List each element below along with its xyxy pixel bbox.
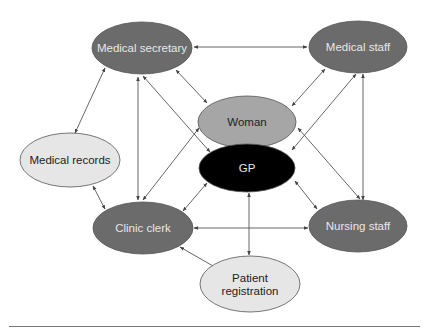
node-label: Medical records [29, 154, 110, 166]
bottom-divider [9, 326, 420, 327]
care-network-diagram: Medical secretaryMedical staffWomanGPMed… [0, 0, 427, 331]
edge-medical-secretary-medical-records [75, 68, 105, 133]
node-medical-secretary: Medical secretary [92, 22, 192, 74]
node-label: Medical secretary [97, 42, 187, 54]
nodes-layer: Medical secretaryMedical staffWomanGPMed… [20, 21, 407, 312]
node-clinic-clerk: Clinic clerk [93, 202, 193, 254]
edge-woman-nursing-staff [298, 128, 360, 199]
edge-gp-clinic-clerk [183, 183, 207, 211]
node-label: Woman [227, 116, 266, 128]
node-label: Nursing staff [326, 220, 391, 232]
node-label: GP [239, 162, 256, 174]
node-label: Clinic clerk [115, 222, 171, 234]
edge-woman-clinic-clerk [143, 128, 199, 200]
edge-medical-secretary-woman [176, 70, 207, 103]
edge-medical-records-clinic-clerk [93, 186, 105, 209]
edge-medical-staff-woman [292, 69, 325, 106]
node-nursing-staff: Nursing staff [309, 200, 407, 252]
node-label: Patient [232, 272, 269, 284]
edge-medical-staff-gp [292, 74, 356, 150]
node-patient-registration: Patientregistration [200, 256, 300, 312]
node-woman: Woman [198, 96, 296, 148]
node-label: Medical staff [326, 41, 391, 53]
node-medical-records: Medical records [20, 133, 120, 187]
node-gp: GP [199, 144, 295, 192]
edge-gp-nursing-staff [295, 181, 317, 209]
node-label: registration [222, 285, 279, 297]
node-medical-staff: Medical staff [309, 21, 407, 73]
